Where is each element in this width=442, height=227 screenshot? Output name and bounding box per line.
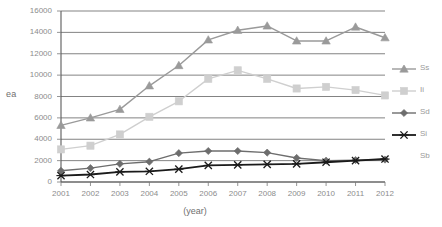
series-line-Ii [61, 70, 385, 149]
data-point-square [264, 75, 271, 82]
data-point-x [233, 161, 242, 168]
marker-diamond [87, 165, 94, 172]
marker-square [87, 142, 94, 149]
data-point-triangle [263, 22, 271, 29]
marker-square [293, 85, 300, 92]
legend-item-Sd[interactable]: Sd [392, 102, 442, 124]
marker-diamond [175, 150, 182, 157]
marker-square [234, 67, 241, 74]
x-axis-title: (year) [0, 206, 390, 216]
data-point-x [174, 166, 183, 173]
legend-item-Ss[interactable]: Ss [392, 58, 442, 80]
marker-square [400, 87, 407, 94]
data-point-square [352, 86, 359, 93]
x-axis-tick: 2002 [75, 190, 105, 198]
x-axis-tick: 2007 [223, 190, 253, 198]
data-point-square [205, 75, 212, 82]
y-axis-tick: 10000 [8, 71, 52, 79]
y-axis-tick: 14000 [8, 28, 52, 36]
marker-square [116, 131, 123, 138]
data-point-x [399, 131, 408, 138]
marker-square [264, 75, 271, 82]
data-point-square [57, 146, 64, 153]
marker-diamond [400, 109, 407, 116]
data-point-diamond [264, 149, 271, 156]
legend-item-Ii[interactable]: Ii [392, 80, 442, 102]
data-point-square [234, 67, 241, 74]
marker-triangle [145, 82, 153, 89]
series-line-Ss [61, 26, 385, 125]
data-point-diamond [87, 165, 94, 172]
data-point-diamond [400, 109, 407, 116]
marker-diamond [116, 160, 123, 167]
legend-label-Sb: Sb [420, 151, 430, 160]
legend-item-Sb[interactable]: Sb [392, 146, 442, 168]
line-chart: ea (year) 020004000600080001000012000140… [0, 0, 442, 227]
marker-diamond [205, 147, 212, 154]
data-point-diamond [116, 160, 123, 167]
marker-diamond [234, 147, 241, 154]
data-point-x [263, 161, 272, 168]
data-point-x [115, 168, 124, 175]
data-point-diamond [175, 150, 182, 157]
legend-swatch-Si [392, 131, 416, 139]
data-point-square [381, 92, 388, 99]
x-axis-tick: 2006 [193, 190, 223, 198]
data-point-square [146, 113, 153, 120]
x-axis-tick: 2003 [105, 190, 135, 198]
legend-label-Sd: Sd [420, 107, 430, 116]
marker-square [381, 92, 388, 99]
series-line-Si [61, 159, 385, 176]
marker-square [352, 86, 359, 93]
x-axis-tick: 2011 [341, 190, 371, 198]
marker-square [57, 146, 64, 153]
data-point-x [204, 162, 213, 169]
y-axis-tick: 12000 [8, 50, 52, 58]
x-axis-tick: 2004 [134, 190, 164, 198]
y-axis-tick: 4000 [8, 135, 52, 143]
marker-square [146, 113, 153, 120]
marker-triangle [263, 22, 271, 29]
x-axis-tick: 2009 [282, 190, 312, 198]
legend-swatch-Sd [392, 109, 416, 117]
data-point-square [175, 98, 182, 105]
y-axis-tick: 2000 [8, 157, 52, 165]
y-axis-tick: 0 [8, 178, 52, 186]
marker-diamond [264, 149, 271, 156]
marker-square [205, 75, 212, 82]
data-point-triangle [145, 82, 153, 89]
marker-square [322, 83, 329, 90]
legend-label-Ss: Ss [420, 63, 429, 72]
data-point-square [293, 85, 300, 92]
y-axis-tick: 16000 [8, 7, 52, 15]
y-axis-tick: 8000 [8, 93, 52, 101]
x-axis-tick: 2012 [370, 190, 400, 198]
data-point-diamond [234, 147, 241, 154]
data-point-square [116, 131, 123, 138]
data-point-triangle [351, 23, 359, 30]
x-axis-tick: 2005 [164, 190, 194, 198]
legend-label-Ii: Ii [420, 85, 424, 94]
data-point-square [87, 142, 94, 149]
x-axis-tick: 2001 [46, 190, 76, 198]
x-axis-tick: 2010 [311, 190, 341, 198]
legend-item-Si[interactable]: Si [392, 124, 442, 146]
data-point-square [400, 87, 407, 94]
x-axis-tick: 2008 [252, 190, 282, 198]
marker-diamond [146, 158, 153, 165]
marker-square [175, 98, 182, 105]
legend-label-Si: Si [420, 129, 427, 138]
y-axis-tick: 6000 [8, 114, 52, 122]
data-point-diamond [205, 147, 212, 154]
series-Si [56, 155, 389, 179]
data-point-diamond [146, 158, 153, 165]
data-point-square [322, 83, 329, 90]
data-point-x [145, 168, 154, 175]
legend-swatch-Ss [392, 65, 416, 73]
marker-triangle [351, 23, 359, 30]
series-Ii [57, 67, 388, 153]
chart-legend: SsIiSdSiSb [392, 58, 442, 168]
legend-swatch-Ii [392, 87, 416, 95]
